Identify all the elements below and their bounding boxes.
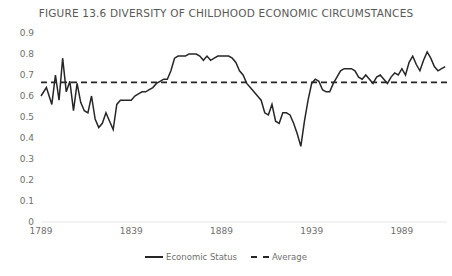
dashed-line-swatch [251, 256, 269, 258]
legend-label-economic-status: Economic Status [166, 252, 237, 262]
chart-legend: Economic Status Average [0, 252, 452, 262]
solid-line-swatch [145, 256, 163, 258]
legend-item-average: Average [251, 252, 307, 262]
figure-container: FIGURE 13.6 DIVERSITY OF CHILDHOOD ECONO… [0, 0, 452, 276]
legend-label-average: Average [272, 252, 307, 262]
legend-item-economic-status: Economic Status [145, 252, 237, 262]
plot-area [0, 0, 452, 276]
economic-status-line [41, 52, 445, 146]
